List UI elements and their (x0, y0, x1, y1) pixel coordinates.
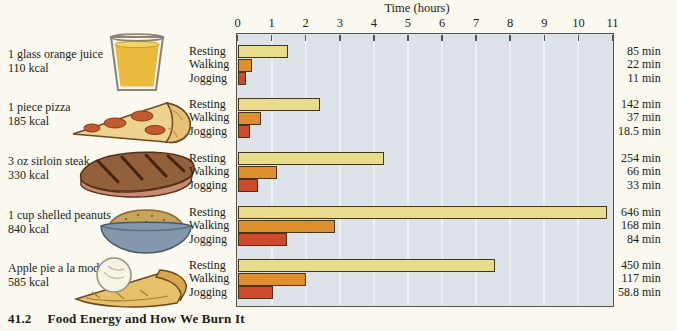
value-label: 11 min (616, 72, 676, 86)
x-axis-tick-label: 1 (268, 16, 274, 31)
value-minutes: 33 (616, 179, 639, 193)
gridline (543, 35, 545, 305)
x-axis-tick-label: 11 (606, 16, 618, 31)
value-unit: min (639, 232, 661, 246)
x-axis-tick (305, 35, 307, 41)
activity-label: Resting (189, 206, 235, 220)
value-unit: min (639, 218, 661, 232)
caption-title: Food Energy and How We Burn It (48, 311, 245, 326)
x-axis-tick (475, 35, 477, 41)
value-label: 646 min (616, 206, 676, 220)
x-axis-tick (407, 35, 409, 41)
apple-pie-a-la-mode-icon (72, 252, 198, 314)
x-axis-tick (509, 35, 511, 41)
activity-label: Walking (189, 111, 235, 125)
value-minutes: 85 (616, 45, 639, 59)
value-unit: min (639, 271, 661, 285)
activity-label: Walking (189, 219, 235, 233)
value-minutes: 18.5 (616, 125, 639, 139)
activity-label: Resting (189, 98, 235, 112)
activity-label: Resting (189, 259, 235, 273)
x-axis-tick-label: 7 (473, 16, 479, 31)
value-unit: min (639, 178, 661, 192)
value-label: 66 min (616, 165, 676, 179)
bar-jogging (238, 72, 246, 85)
activity-label: Walking (189, 165, 235, 179)
value-label: 85 min (616, 45, 676, 59)
value-unit: min (639, 97, 661, 111)
x-axis-tick (339, 35, 341, 41)
value-label: 22 min (616, 58, 676, 72)
value-label: 142 min (616, 98, 676, 112)
value-minutes: 22 (616, 58, 639, 72)
x-axis-tick (612, 35, 614, 41)
orange-juice-glass-icon (103, 31, 171, 98)
value-minutes: 66 (616, 165, 639, 179)
bar-walking (238, 220, 335, 233)
activity-label: Walking (189, 58, 235, 72)
bar-walking (238, 273, 306, 286)
x-axis-tick (441, 35, 443, 41)
sirloin-steak-icon (76, 149, 198, 203)
x-axis-tick-label: 0 (234, 16, 240, 31)
value-label: 18.5 min (616, 125, 676, 139)
x-axis-tick-label: 4 (371, 16, 377, 31)
value-minutes: 37 (616, 111, 639, 125)
pizza-slice-icon (70, 97, 198, 157)
bar-resting (238, 206, 607, 219)
value-label: 254 min (616, 152, 676, 166)
value-label: 37 min (616, 111, 676, 125)
figure-caption: 41.2Food Energy and How We Burn It (8, 311, 245, 327)
activity-label: Jogging (189, 125, 235, 139)
bar-resting (238, 98, 321, 111)
activity-label: Walking (189, 272, 235, 286)
value-unit: min (639, 57, 661, 71)
value-minutes: 11 (616, 72, 639, 86)
value-unit: min (639, 151, 661, 165)
value-unit: min (639, 258, 661, 272)
x-axis-tick-label: 3 (337, 16, 343, 31)
caption-number: 41.2 (8, 311, 32, 326)
bar-walking (238, 112, 261, 125)
bar-jogging (238, 125, 251, 138)
value-label: 58.8 min (616, 286, 676, 300)
bar-jogging (238, 179, 259, 192)
value-minutes: 117 (616, 272, 639, 286)
value-label: 117 min (616, 272, 676, 286)
value-label: 33 min (616, 179, 676, 193)
x-axis-tick (373, 35, 375, 41)
value-unit: min (639, 44, 661, 58)
bar-jogging (238, 286, 273, 299)
value-minutes: 254 (616, 152, 639, 166)
value-minutes: 142 (616, 98, 639, 112)
figure-food-energy: Time (hours) 012345678910111 glass orang… (0, 0, 677, 331)
value-unit: min (639, 285, 661, 299)
x-axis-title: Time (hours) (384, 1, 449, 16)
activity-label: Jogging (189, 72, 235, 86)
bar-jogging (238, 233, 288, 246)
x-axis-tick (237, 35, 239, 41)
value-minutes: 168 (616, 219, 639, 233)
value-unit: min (639, 124, 661, 138)
activity-label: Jogging (189, 233, 235, 247)
bar-resting (238, 259, 496, 272)
bar-resting (238, 152, 384, 165)
x-axis-tick-label: 10 (572, 16, 585, 31)
value-minutes: 450 (616, 259, 639, 273)
value-label: 168 min (616, 219, 676, 233)
bar-walking (238, 59, 253, 72)
value-unit: min (639, 205, 661, 219)
value-label: 84 min (616, 233, 676, 247)
x-axis-tick-label: 2 (303, 16, 309, 31)
bar-resting (238, 45, 288, 58)
activity-label: Resting (189, 45, 235, 59)
value-minutes: 58.8 (616, 286, 639, 300)
value-minutes: 646 (616, 206, 639, 220)
x-axis-tick-label: 9 (541, 16, 547, 31)
x-axis-tick (271, 35, 273, 41)
value-label: 450 min (616, 259, 676, 273)
gridline (509, 35, 511, 305)
value-unit: min (639, 110, 661, 124)
x-axis-tick-label: 5 (405, 16, 411, 31)
x-axis-tick-label: 6 (439, 16, 445, 31)
